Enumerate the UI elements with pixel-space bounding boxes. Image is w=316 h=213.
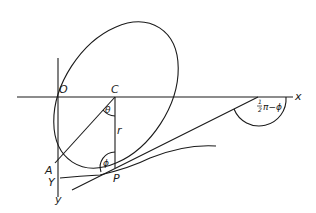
pedal-curve [60, 146, 216, 178]
tangent-line [72, 97, 258, 190]
label-x-axis: x [294, 90, 302, 103]
label-phi: ϕ [103, 158, 109, 168]
label-y-axis: y [54, 193, 62, 206]
label-radius: r [117, 124, 123, 137]
label-point-p: P [113, 172, 120, 185]
ellipse-diagram: O C x y A Y P r θ ϕ 1 2 π−ϕ [0, 0, 316, 213]
label-point-y: Y [48, 176, 56, 189]
label-outer-angle: π−ϕ [263, 102, 282, 112]
label-frac-den: 2 [258, 106, 262, 113]
label-theta: θ [105, 105, 111, 115]
label-frac-num: 1 [258, 98, 262, 105]
label-center: C [111, 83, 119, 96]
label-origin: O [59, 83, 68, 96]
